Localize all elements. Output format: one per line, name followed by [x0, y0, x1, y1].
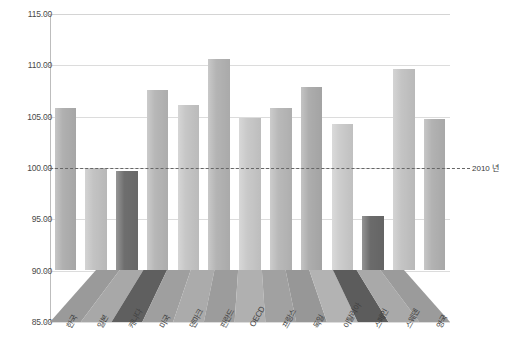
bar-shading	[270, 108, 292, 270]
bar	[178, 105, 200, 270]
bars-group	[50, 14, 450, 270]
bar	[208, 59, 230, 270]
bar-shading	[362, 216, 384, 270]
chart-floor-3d	[50, 270, 450, 322]
bar-shading	[208, 59, 230, 270]
bar	[301, 87, 323, 270]
bar	[270, 108, 292, 270]
bar	[147, 90, 169, 270]
bar-shading	[424, 119, 446, 270]
bar-shading	[147, 90, 169, 270]
bar	[424, 119, 446, 270]
bar-shading	[85, 168, 107, 270]
reference-line-label: 2010 년	[472, 162, 499, 173]
x-axis-category-labels: 한국일본캐나다미국덴마크핀란드OECD프랑스독일이탈리아스페인스웨덴영국	[50, 322, 450, 361]
bar-shading	[301, 87, 323, 270]
bar-chart: 115.00110.00105.00100.0095.0090.0085.00 …	[0, 0, 508, 361]
bar-shading	[55, 108, 77, 270]
bar	[393, 69, 415, 270]
bar-shading	[178, 105, 200, 270]
bar-shading	[116, 171, 138, 270]
floor-svg	[50, 270, 450, 322]
bar	[239, 118, 261, 270]
bar	[55, 108, 77, 270]
bar	[362, 216, 384, 270]
bar	[85, 168, 107, 270]
reference-line-2010	[50, 168, 470, 169]
bar-shading	[239, 118, 261, 270]
bar-shading	[332, 124, 354, 270]
bar	[332, 124, 354, 270]
bar	[116, 171, 138, 270]
bar-shading	[393, 69, 415, 270]
